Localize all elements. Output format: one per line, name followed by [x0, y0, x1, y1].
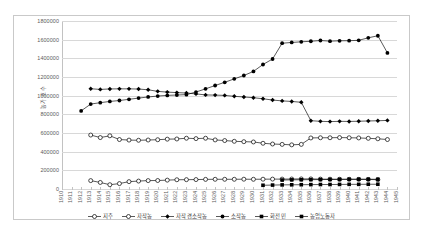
data-point: [347, 136, 351, 140]
data-point: [213, 93, 217, 97]
data-point: [223, 80, 227, 84]
data-point: [271, 142, 275, 146]
data-point: [366, 177, 370, 181]
series-지주: [89, 177, 380, 187]
plot-area: 0200000400000600000800000100000012000001…: [62, 21, 397, 189]
data-point: [213, 138, 217, 142]
data-point: [252, 70, 256, 74]
data-point: [251, 96, 255, 100]
data-point: [108, 87, 112, 91]
x-axis-tick-mark: [359, 187, 360, 190]
data-point: [270, 98, 274, 102]
data-point: [89, 87, 93, 91]
x-axis-tick-mark: [206, 187, 207, 190]
y-axis-tick-label: 200000: [40, 167, 59, 173]
data-point: [328, 183, 332, 187]
x-axis-tick-mark: [177, 187, 178, 190]
data-point: [242, 74, 246, 78]
data-point: [290, 41, 294, 45]
x-axis-tick-mark: [253, 187, 254, 190]
data-point: [165, 178, 169, 182]
x-axis-tick-mark: [349, 187, 350, 190]
legend-item-소작농[interactable]: 소작농: [216, 212, 246, 220]
series-자작겸소작농: [89, 87, 390, 124]
y-axis-tick-label: 400000: [40, 149, 59, 155]
data-point: [89, 133, 93, 137]
data-point: [221, 214, 225, 218]
data-point: [89, 179, 93, 183]
data-point: [328, 136, 332, 140]
x-axis-tick-mark: [91, 187, 92, 190]
data-point: [299, 214, 303, 218]
data-point: [185, 93, 189, 97]
data-point: [137, 138, 141, 142]
data-point: [204, 136, 208, 140]
data-point: [108, 134, 112, 138]
chart-frame: 농가 호수 0200000400000600000800000100000012…: [13, 15, 410, 220]
x-axis-tick-mark: [196, 187, 197, 190]
x-axis-tick-mark: [186, 187, 187, 190]
data-point: [290, 99, 294, 103]
data-point: [366, 36, 370, 40]
data-point: [166, 214, 170, 218]
data-point: [242, 140, 246, 144]
data-point: [251, 177, 255, 181]
data-point: [261, 63, 265, 67]
data-point: [357, 38, 361, 42]
x-axis-tick-mark: [292, 187, 293, 190]
data-point: [318, 136, 322, 140]
x-axis-tick-mark: [282, 187, 283, 190]
data-point: [136, 87, 140, 91]
data-point: [366, 182, 370, 186]
legend-item-자작겸소작농[interactable]: 자작겸소작농: [161, 212, 207, 220]
data-point: [338, 39, 342, 43]
x-axis-tick-mark: [263, 187, 264, 190]
x-axis-tick-mark: [100, 187, 101, 190]
data-point: [347, 183, 351, 187]
legend-label: 소작농: [231, 212, 246, 220]
data-point: [156, 179, 160, 183]
x-axis-tick-mark: [301, 187, 302, 190]
data-point: [318, 119, 322, 123]
data-point: [213, 84, 217, 88]
data-point: [127, 97, 131, 101]
data-point: [376, 177, 380, 181]
data-point: [223, 93, 227, 97]
data-point: [223, 139, 227, 143]
data-point: [338, 136, 342, 140]
legend-item-화전민[interactable]: 화전민: [255, 212, 285, 220]
data-point: [299, 40, 303, 44]
data-point: [376, 34, 380, 38]
x-axis-tick-mark: [368, 187, 369, 190]
y-axis-tick-label: 1800000: [37, 18, 59, 24]
data-point: [175, 178, 179, 182]
data-point: [347, 39, 351, 43]
x-axis-tick-mark: [340, 187, 341, 190]
data-point: [338, 178, 342, 182]
legend-marker-filled-square-icon: [255, 213, 268, 220]
gridline: [62, 189, 397, 190]
data-point: [156, 89, 160, 93]
data-point: [366, 119, 370, 123]
data-point: [127, 214, 131, 218]
series-소작농: [79, 34, 389, 113]
x-axis-tick-mark: [119, 187, 120, 190]
data-point: [98, 180, 102, 184]
legend-marker-filled-circle-icon: [216, 213, 229, 220]
data-point: [98, 136, 102, 140]
legend-item-농업노동자[interactable]: 농업노동자: [295, 212, 336, 220]
data-point: [146, 179, 150, 183]
legend-marker-open-circle-icon: [122, 213, 135, 220]
y-axis-tick-label: 1000000: [37, 93, 59, 99]
data-point: [261, 177, 265, 181]
data-point: [328, 39, 332, 43]
legend-item-지주[interactable]: 지주: [88, 212, 113, 220]
data-point: [232, 94, 236, 98]
data-point: [376, 119, 380, 123]
data-point: [309, 178, 313, 182]
data-point: [127, 87, 131, 91]
series-line: [91, 135, 388, 145]
data-point: [357, 177, 361, 181]
x-axis-tick-mark: [129, 187, 130, 190]
legend-item-자작농[interactable]: 자작농: [122, 212, 152, 220]
